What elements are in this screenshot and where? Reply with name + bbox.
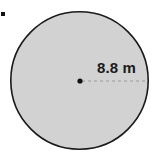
center-dot	[77, 78, 82, 83]
geometry-figure: 8.8 m	[0, 0, 157, 161]
bullet-mark	[1, 12, 5, 16]
circle-diagram-canvas	[0, 0, 157, 161]
radius-measurement-label: 8.8 m	[97, 60, 136, 75]
